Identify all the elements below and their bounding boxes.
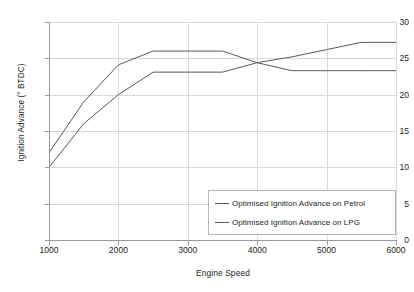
series-line [49, 42, 396, 167]
y-tick [45, 204, 49, 205]
y-axis-title: Ignition Advance (° BTDC) [17, 18, 26, 208]
y-tick-label: 30 [369, 17, 409, 27]
y-tick [45, 22, 49, 23]
legend-line-swatch-icon [215, 222, 229, 223]
series-line [49, 51, 396, 153]
legend-label-petrol: Optimised Ignition Advance on Petrol [232, 199, 365, 208]
y-tick [45, 167, 49, 168]
y-tick-label: 25 [369, 53, 409, 63]
x-axis-title: Engine Speed [48, 268, 398, 278]
x-tick-label: 1000 [26, 245, 72, 255]
x-tick-label: 5000 [304, 245, 350, 255]
legend-item-petrol: Optimised Ignition Advance on Petrol [215, 198, 365, 209]
x-tick-label: 2000 [95, 245, 141, 255]
x-tick-label: 3000 [165, 245, 211, 255]
y-tick-label: 0 [369, 235, 409, 245]
y-axis-line [49, 22, 50, 241]
x-tick-label: 4000 [234, 245, 280, 255]
legend-line-swatch-icon [215, 203, 229, 204]
y-tick [45, 131, 49, 132]
y-tick-label: 20 [369, 90, 409, 100]
y-tick-label: 15 [369, 126, 409, 136]
x-tick-label: 6000 [373, 245, 414, 255]
legend-label-lpg: Optimised Ignition Advance on LPG [232, 218, 360, 227]
chart-legend: Optimised Ignition Advance on Petrol Opt… [208, 190, 396, 235]
y-tick [45, 95, 49, 96]
y-tick-label: 10 [369, 162, 409, 172]
legend-item-lpg: Optimised Ignition Advance on LPG [215, 217, 360, 228]
x-axis-line [49, 240, 397, 241]
y-tick [45, 58, 49, 59]
